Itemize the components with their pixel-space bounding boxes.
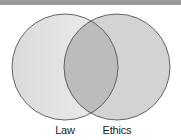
venn-diagram [0, 0, 181, 140]
ethics-label: Ethics [103, 124, 132, 136]
law-label: Law [55, 124, 75, 136]
